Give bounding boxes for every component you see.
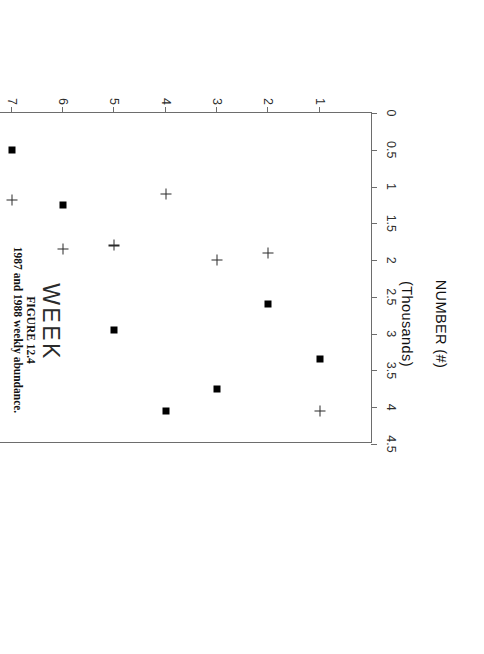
value-axis-tick-label: 3.5 [384,362,398,379]
value-axis-title-line1: NUMBER (#) [432,174,449,474]
value-axis-tick [371,223,377,224]
week-axis-tick-label: 4 [159,89,173,105]
value-axis-tick-label: 1 [384,183,398,190]
week-axis-tick-label: 5 [108,89,122,105]
week-axis-tick [267,107,268,113]
week-axis-tick-label: 3 [210,89,224,105]
week-axis-tick-label: 6 [56,89,70,105]
figure-caption-text: 1987 and 1988 weekly abundance. [11,150,24,510]
value-axis-tick [371,187,377,188]
data-point-1987-week-2 [265,301,272,308]
value-axis-tick-label: 2 [384,257,398,264]
value-axis-tick-label: 0 [384,110,398,117]
value-axis-tick [371,334,377,335]
figure-caption: FIGURE 12.4 1987 and 1988 weekly abundan… [11,150,37,510]
value-axis-tick [371,407,377,408]
week-axis-title: WEEK [37,232,64,412]
figure-container: NUMBER (#) (Thousands) 00.511.522.533.54… [0,0,484,654]
week-axis-tick-label: 1 [313,89,327,105]
rotated-figure-stage: NUMBER (#) (Thousands) 00.511.522.533.54… [0,0,484,654]
value-axis-tick-label: 1.5 [384,215,398,232]
week-axis-tick [216,107,217,113]
week-axis-tick-label: 2 [261,89,275,105]
data-point-1987-week-1 [316,356,323,363]
value-axis-tick [371,150,377,151]
data-point-1988-week-1 [314,405,325,416]
value-axis-tick [371,297,377,298]
value-axis-tick-label: 0.5 [384,141,398,158]
data-point-1988-week-3 [212,255,223,266]
week-axis-tick [62,107,63,113]
week-axis-tick-label: 7 [5,89,19,105]
week-axis-tick [114,107,115,113]
data-point-1988-week-2 [263,247,274,258]
week-axis-tick [319,107,320,113]
value-axis-tick-label: 3 [384,330,398,337]
data-point-1987-week-3 [214,385,221,392]
value-axis-tick [371,260,377,261]
value-axis-tick [371,113,377,114]
value-axis-title-line2: (Thousands) [398,174,415,474]
value-axis-tick [371,444,377,445]
data-point-1987-week-5 [111,326,118,333]
week-axis-tick [165,107,166,113]
data-point-1987-week-4 [162,407,169,414]
value-axis-tick [371,370,377,371]
figure-caption-label: FIGURE 12.4 [24,150,37,510]
value-axis-tick-label: 4.5 [384,435,398,452]
data-point-1988-week-5 [109,240,120,251]
data-point-1987-week-6 [60,201,67,208]
week-axis-tick [11,107,12,113]
value-axis-tick-label: 2.5 [384,288,398,305]
value-axis-tick-label: 4 [384,404,398,411]
data-point-1988-week-4 [160,188,171,199]
